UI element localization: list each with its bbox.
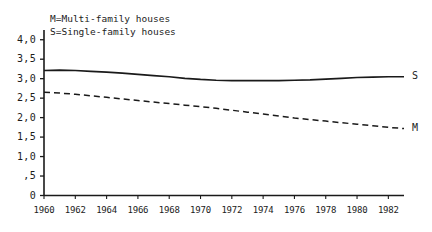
x-axis-tick-label: 1962: [58, 206, 92, 215]
series-line-s: [44, 70, 404, 81]
y-axis-tick-label: ,5: [8, 171, 36, 181]
series-end-label-s: S: [412, 71, 418, 81]
legend-entry-multi-family: M=Multi-family houses: [50, 12, 176, 25]
x-axis-tick-label: 1974: [246, 206, 280, 215]
x-axis-tick-label: 1968: [152, 206, 186, 215]
x-axis-tick-label: 1960: [27, 206, 61, 215]
series-end-label-m: M: [412, 123, 418, 133]
series-line-m: [44, 92, 404, 128]
y-axis-tick-label: 2,0: [8, 113, 36, 123]
legend: M=Multi-family houses S=Single-family ho…: [50, 12, 176, 38]
y-axis-tick-label: 4,0: [8, 35, 36, 45]
y-axis-tick-label: 2,5: [8, 93, 36, 103]
y-axis-tick-label: 0: [8, 191, 36, 201]
x-axis-tick-label: 1976: [277, 206, 311, 215]
x-axis-tick-label: 1980: [340, 206, 374, 215]
x-axis-tick-label: 1978: [309, 206, 343, 215]
y-axis-tick-label: 1,0: [8, 152, 36, 162]
x-axis-tick-label: 1982: [371, 206, 405, 215]
y-axis-tick-label: 3,5: [8, 54, 36, 64]
y-axis-tick-label: 3,0: [8, 74, 36, 84]
data-series-group: [44, 70, 404, 128]
x-axis-tick-label: 1966: [121, 206, 155, 215]
y-axis-tick-label: 1,5: [8, 132, 36, 142]
x-axis-tick-label: 1970: [184, 206, 218, 215]
x-axis-tick-label: 1972: [215, 206, 249, 215]
chart-container: M=Multi-family houses S=Single-family ho…: [0, 0, 432, 232]
x-axis-tick-label: 1964: [90, 206, 124, 215]
legend-entry-single-family: S=Single-family houses: [50, 25, 176, 38]
